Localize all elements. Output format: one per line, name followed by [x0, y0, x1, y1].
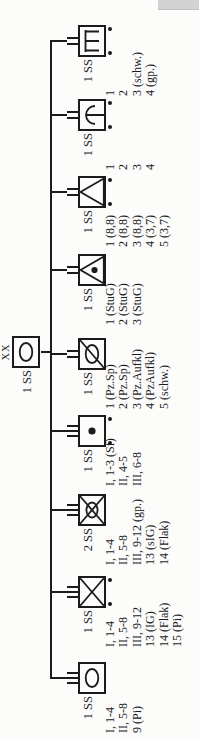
infantry-symbol-icon: [78, 576, 106, 608]
unit-item: 5 (schw.): [158, 349, 172, 409]
unit-item: 2 (Pz.Sp): [117, 349, 131, 409]
unit-item: 13 (sIG): [144, 499, 158, 565]
unit-items: 1 (8,8)2 (8,8)3 (8,8)4 (3,7)5 (3,7): [104, 215, 172, 247]
unit-items: 123 (schw.)4 (gp.): [104, 52, 158, 96]
unit-item: II, 5-8: [117, 499, 131, 565]
connector-line: [50, 677, 67, 679]
connector-line: [50, 591, 67, 593]
unit-item: I, 1-3 (Sf): [104, 438, 118, 486]
echelon-stroke: [67, 37, 78, 39]
echelon-stroke: [67, 509, 78, 511]
unit-item: 1: [104, 52, 118, 96]
echelon-stroke: [67, 672, 78, 674]
division-root-node: XX 1 SS: [0, 297, 52, 407]
unit-label: 1 SS: [81, 696, 95, 733]
connector-line: [50, 353, 67, 355]
echelon-stroke: [67, 435, 78, 437]
unit-item: 2 (8,8): [117, 215, 131, 247]
unit-label: 1 SS: [81, 59, 95, 96]
unit-item: 4 (PzAufkl): [144, 349, 158, 409]
unit-item: 2: [117, 164, 131, 170]
echelon-stroke: [67, 596, 78, 598]
unit-item: III, 6-8: [131, 438, 145, 486]
unit-item: 13 (IG): [144, 603, 158, 647]
echelon-stroke: [67, 111, 78, 113]
unit-item: 2: [117, 52, 131, 96]
connector-line: [50, 269, 67, 271]
org-chart: XX 1 SS 1 SS I, 1-4II, 5-89 (Pi) 1 SS I,…: [0, 0, 199, 741]
echelon-stroke: [67, 43, 78, 45]
echelon-marks: [67, 0, 78, 96]
unit-item: 3 (8,8): [131, 215, 145, 247]
unit-items: I, 1-4II, 5-8III, 9-1213 (IG)14 (Flak)15…: [104, 603, 186, 647]
unit-item: 3 (StuG): [131, 283, 145, 325]
unit-item: 1 (8,8): [104, 215, 118, 247]
echelon-stroke: [67, 266, 78, 268]
unit-items: 1 (StuG)2 (StuG)3 (StuG): [104, 283, 145, 325]
unit-node: 1 SS 123 (schw.)4 (gp.): [50, 0, 199, 96]
echelon-stroke: [67, 188, 78, 190]
unit-items: 1 (Pz.Sp)2 (Pz.Sp)3 (Pz.Aufkl)4 (PzAufkl…: [104, 349, 172, 409]
unit-item: I, 1-4: [104, 703, 118, 733]
echelon-stroke: [67, 591, 78, 593]
artillery-symbol-icon: [78, 415, 106, 447]
unit-item: 14 (Flak): [158, 499, 172, 565]
echelon-stroke: [67, 194, 78, 196]
echelon-stroke: [67, 117, 78, 119]
division-label: 1 SS: [20, 370, 34, 407]
pionier-symbol-icon: [78, 25, 106, 57]
echelon-stroke: [67, 504, 78, 506]
werfer-symbol-icon: [78, 99, 106, 131]
unit-items: I, 1-3 (Sf)II, 4-5III, 6-8: [104, 438, 145, 486]
unit-item: II, 4-5: [117, 438, 131, 486]
unit-item: 4: [144, 164, 158, 170]
echelon-stroke: [67, 356, 78, 358]
unit-label: 1 SS: [81, 210, 95, 247]
sturmgeschuetz-symbol-icon: [78, 254, 106, 286]
echelon-stroke: [67, 586, 78, 588]
unit-label: 1 SS: [81, 610, 95, 647]
division-echelon-mark: XX: [0, 297, 12, 407]
unit-item: II, 5-8: [117, 703, 131, 733]
unit-item: 3: [131, 164, 145, 170]
unit-item: 1 (StuG): [104, 283, 118, 325]
unit-label: 1 SS: [81, 449, 95, 486]
unit-item: I, 1-4: [104, 499, 118, 565]
unit-items: I, 1-4II, 5-8III, 9-12 (gp.)13 (sIG)14 (…: [104, 499, 172, 565]
unit-item: III, 9-12: [131, 603, 145, 647]
echelon-stroke: [67, 350, 78, 352]
unit-items: 1234: [104, 164, 158, 170]
flak-symbol-icon: [78, 176, 106, 208]
unit-label: 2 SS: [81, 528, 95, 565]
echelon-stroke: [67, 272, 78, 274]
armored-recon-symbol-icon: [78, 338, 106, 370]
echelon-stroke: [67, 430, 78, 432]
unit-label: 1 SS: [81, 133, 95, 170]
unit-item: 14 (Flak): [158, 603, 172, 647]
echelon-stroke: [67, 514, 78, 516]
panzer-symbol-icon: [78, 662, 106, 694]
echelon-stroke: [67, 682, 78, 684]
connector-line: [50, 430, 67, 432]
unit-item: 5 (3,7): [158, 215, 172, 247]
connector-line: [50, 191, 67, 193]
connector-line: [50, 114, 67, 116]
unit-item: 3 (schw.): [131, 52, 145, 96]
connector-line: [50, 509, 67, 511]
unit-item: 4 (3,7): [144, 215, 158, 247]
unit-label: 1 SS: [81, 288, 95, 325]
unit-item: 4 (gp.): [144, 52, 158, 96]
unit-item: 15 (Pi): [171, 603, 185, 647]
panzergrenadier-symbol-icon: [78, 494, 106, 526]
unit-item: I, 1-4: [104, 603, 118, 647]
unit-item: 2 (StuG): [117, 283, 131, 325]
echelon-stroke: [67, 677, 78, 679]
unit-item: III, 9-12 (gp.): [131, 499, 145, 565]
unit-item: 9 (Pi): [131, 703, 145, 733]
panzer-division-symbol-icon: [12, 336, 40, 368]
unit-item: 3 (Pz.Aufkl): [131, 349, 145, 409]
unit-item: 1: [104, 164, 118, 170]
unit-items: I, 1-4II, 5-89 (Pi): [104, 703, 145, 733]
echelon-stroke: [67, 425, 78, 427]
connector-line: [50, 40, 67, 42]
